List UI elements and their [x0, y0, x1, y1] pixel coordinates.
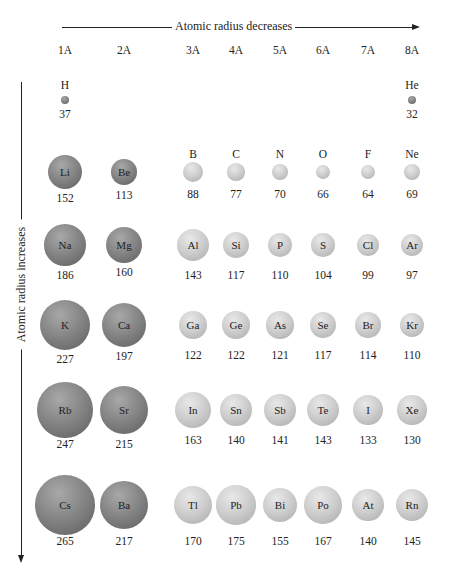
element-symbol: He	[392, 79, 432, 91]
radius-value: 167	[303, 535, 343, 547]
element-symbol: P	[277, 239, 283, 251]
radius-value: 163	[173, 434, 213, 446]
atom-sphere: Na	[44, 224, 86, 266]
element-symbol: Cs	[59, 499, 71, 511]
radius-value: 37	[45, 108, 85, 120]
element-symbol: N	[260, 148, 300, 160]
atom-sphere	[316, 165, 331, 180]
radius-value: 227	[45, 353, 85, 365]
atom-sphere: In	[175, 392, 212, 429]
element-symbol: O	[303, 148, 343, 160]
radius-value: 155	[260, 535, 300, 547]
radius-value: 140	[348, 535, 388, 547]
vertical-axis-label: Atomic radius increases	[14, 220, 29, 350]
atom-sphere: Pb	[216, 485, 255, 524]
element-symbol: Ar	[406, 239, 418, 251]
element-symbol: Sn	[230, 404, 242, 416]
radius-value: 217	[104, 535, 144, 547]
arrow-down-icon	[18, 555, 24, 563]
atom-sphere: Al	[177, 229, 209, 261]
radius-value: 117	[216, 269, 256, 281]
element-symbol: Se	[318, 319, 329, 331]
element-symbol: Ne	[392, 148, 432, 160]
horizontal-axis-label: Atomic radius decreases	[172, 19, 295, 34]
atom-sphere: Br	[355, 312, 381, 338]
atom-sphere: Rn	[396, 489, 428, 521]
radius-value: 114	[348, 349, 388, 361]
atom-sphere: Mg	[106, 227, 142, 263]
group-header-7a: 7A	[353, 44, 383, 56]
radius-value: 110	[392, 349, 432, 361]
element-symbol: S	[320, 239, 326, 251]
radius-value: 265	[45, 535, 85, 547]
atom-sphere: Sn	[220, 394, 251, 425]
radius-value: 113	[104, 189, 144, 201]
radius-value: 152	[45, 192, 85, 204]
atom-sphere: Sr	[100, 386, 148, 434]
atom-sphere: Ba	[100, 481, 149, 530]
atom-sphere: Tl	[174, 486, 212, 524]
radius-value: 121	[260, 349, 300, 361]
radius-value: 160	[104, 266, 144, 278]
arrow-right-icon	[412, 24, 420, 30]
radius-value: 70	[260, 188, 300, 200]
element-symbol: Br	[363, 319, 374, 331]
group-header-6a: 6A	[308, 44, 338, 56]
atom-sphere: Xe	[397, 395, 426, 424]
atom-sphere: Ar	[401, 234, 423, 256]
radius-value: 247	[45, 438, 85, 450]
atom-sphere: K	[40, 300, 91, 351]
element-symbol: Po	[317, 499, 329, 511]
atom-sphere: Ca	[102, 303, 146, 347]
element-symbol: Ge	[230, 319, 243, 331]
element-symbol: C	[216, 148, 256, 160]
radius-value: 88	[173, 188, 213, 200]
group-header-3a: 3A	[178, 44, 208, 56]
atom-sphere: Ge	[222, 311, 249, 338]
element-symbol: In	[188, 404, 197, 416]
atom-sphere: Ga	[179, 311, 206, 338]
element-symbol: I	[366, 404, 370, 416]
atom-sphere	[404, 164, 419, 179]
atom-sphere: Si	[223, 232, 249, 258]
element-symbol: Be	[118, 166, 130, 178]
radius-value: 197	[104, 350, 144, 362]
radius-value: 141	[260, 434, 300, 446]
group-header-5a: 5A	[265, 44, 295, 56]
radius-value: 130	[392, 434, 432, 446]
atom-sphere: S	[311, 233, 334, 256]
group-header-1a: 1A	[50, 44, 80, 56]
atom-sphere: Te	[307, 394, 339, 426]
element-symbol: Ga	[187, 319, 200, 331]
atom-sphere	[272, 164, 288, 180]
element-symbol: Sr	[119, 404, 129, 416]
radius-value: 122	[216, 349, 256, 361]
atom-sphere: At	[352, 489, 383, 520]
radius-value: 64	[348, 188, 388, 200]
radius-value: 143	[303, 434, 343, 446]
element-symbol: At	[363, 499, 374, 511]
radius-value: 77	[216, 188, 256, 200]
atom-sphere	[61, 96, 69, 104]
radius-value: 66	[303, 188, 343, 200]
radius-value: 122	[173, 349, 213, 361]
element-symbol: As	[274, 319, 286, 331]
element-symbol: Rb	[59, 404, 72, 416]
radius-value: 110	[260, 269, 300, 281]
radius-value: 133	[348, 434, 388, 446]
radius-value: 145	[392, 535, 432, 547]
radius-value: 99	[348, 269, 388, 281]
group-header-2a: 2A	[109, 44, 139, 56]
atom-sphere	[361, 165, 375, 179]
radius-value: 140	[216, 434, 256, 446]
element-symbol: Bi	[275, 499, 285, 511]
element-symbol: Te	[318, 404, 329, 416]
element-symbol: Li	[60, 166, 70, 178]
element-symbol: F	[348, 148, 388, 160]
element-symbol: B	[173, 148, 213, 160]
radius-value: 32	[392, 108, 432, 120]
element-symbol: Sb	[274, 404, 286, 416]
atom-sphere: Bi	[263, 488, 298, 523]
atom-sphere: Kr	[400, 313, 425, 338]
atom-sphere: Be	[111, 159, 136, 184]
